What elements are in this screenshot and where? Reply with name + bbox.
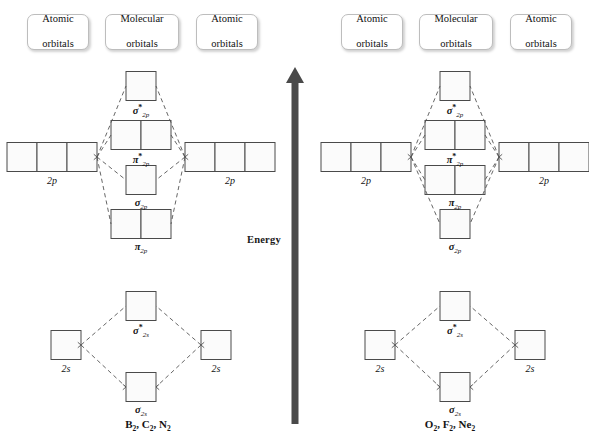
right-mo-sigma-2p-cell-0 [440,210,470,239]
left-atomic-2p-left-cell-0 [7,143,37,172]
right-mo-sigma-2s [440,373,470,402]
right-corr-left-pi-2p [411,157,425,180]
left-corr-left-pi-2p [97,157,111,224]
right-mo-sigma-2p [440,210,470,239]
right-mo-sigma-star-2s-cell-0 [440,292,470,321]
right-label-sigma-2p: σ2p [425,241,485,255]
right-atomic-2s-right [515,331,545,360]
right-label-pi-star-2p: π*2p [425,152,485,168]
right-atomic-2p-left-label: 2p [341,175,391,186]
right-tip-s2s-right-1 [470,387,474,391]
left-atomic-2p-left-cell-1 [37,143,67,172]
left-mo-pi-2p-cell-0 [111,210,141,239]
right-atomic-2p-left [321,143,411,172]
left-tip-s2s-left-1 [122,387,126,391]
left-atomic-2p-right-cell-0 [185,143,215,172]
left-mo-sigma-star-2p [126,72,156,101]
left-atomic-2p-right [185,143,275,172]
left-atomic-2p-left [7,143,97,172]
right-mo-pi-2p [425,166,485,195]
left-label-pi-2p: π2p [111,241,171,255]
left-mo-pi-star-2p-cell-0 [111,121,141,150]
right-mo-sigma-2s-cell-0 [440,373,470,402]
right-atomic-2p-left-cell-1 [351,143,381,172]
left-label-sigma-2p: σ2p [111,197,171,211]
left-atomic-2p-left-label: 2p [27,175,77,186]
left-atomic-2s-left-cell-0 [51,331,81,360]
left-atomic-2p-left-cell-2 [67,143,97,172]
right-atomic-2s-left-label: 2s [355,363,405,374]
right-atomic-2p-right-cell-2 [559,143,589,172]
left-mo-pi-star-2p [111,121,171,150]
left-corr-right-pi-2p [171,157,185,224]
right-atomic-2p-left-cell-0 [321,143,351,172]
left-mo-sigma-star-2s [126,292,156,321]
right-atomic-2p-left-cell-2 [381,143,411,172]
right-mo-pi-star-2p-cell-1 [455,121,485,150]
left-atomic-2s-left [51,331,81,360]
energy-arrow-shaft [292,81,299,424]
right-corr-left-pi-star-2p [411,135,425,157]
left-label-sigma-star-2p: σ*2p [111,103,171,119]
right-tip-s2s-left-1 [436,387,440,391]
energy-axis-arrow [286,67,304,424]
right-atomic-2p-right-cell-0 [499,143,529,172]
left-tip-s2s-right-0 [156,383,160,387]
left-mo-sigma-star-2s-cell-0 [126,292,156,321]
left-label-sigma-2s: σ2s [111,404,171,418]
right-tip-s2s-right-0 [470,383,474,387]
right-atomic-2p-right-label: 2p [519,175,569,186]
right-label-pi-2p: π2p [425,197,485,211]
right-mo-sigma-star-2s [440,292,470,321]
left-mo-pi-2p [111,210,171,239]
right-mo-pi-star-2p [425,121,485,150]
right-mo-sigma-star-2p-cell-0 [440,72,470,101]
right-label-sigma-2s: σ2s [425,404,485,418]
energy-arrow-head [286,67,304,83]
left-atomic-2s-right-cell-0 [201,331,231,360]
left-mo-sigma-star-2p-cell-0 [126,72,156,101]
right-tip-s2s-left-0 [436,383,440,387]
left-mo-pi-2p-cell-1 [141,210,171,239]
right-atomic-2s-left [365,331,395,360]
diagram-graphics-layer [0,0,589,445]
right-label-sigma-star-2s: σ*2s [425,323,485,339]
left-mo-sigma-2p [126,166,156,195]
right-corr-right-pi-2p [485,157,499,180]
left-corr-left-pi-star-2p [97,135,111,157]
caption-right-molecules: O2, F2, Ne2 [390,418,510,433]
right-atomic-2s-right-label: 2s [505,363,555,374]
right-label-sigma-star-2p: σ*2p [425,103,485,119]
left-atomic-2s-right [201,331,231,360]
left-mo-sigma-2s [126,373,156,402]
left-corr-right-pi-star-2p [171,135,185,157]
right-mo-pi-2p-cell-0 [425,166,455,195]
left-mo-sigma-2s-cell-0 [126,373,156,402]
left-label-sigma-star-2s: σ*2s [111,323,171,339]
right-mo-sigma-star-2p [440,72,470,101]
caption-text: B2, C2, N2 [125,418,170,430]
left-atomic-2p-right-cell-2 [245,143,275,172]
right-atomic-2s-right-cell-0 [515,331,545,360]
right-mo-pi-star-2p-cell-0 [425,121,455,150]
left-atomic-2s-left-label: 2s [41,363,91,374]
caption-left-molecules: B2, C2, N2 [93,418,203,433]
left-atomic-2s-right-label: 2s [191,363,241,374]
left-atomic-2p-right-label: 2p [205,175,255,186]
right-atomic-2p-right [499,143,589,172]
right-atomic-2s-left-cell-0 [365,331,395,360]
left-mo-sigma-2p-cell-0 [126,166,156,195]
left-mo-pi-star-2p-cell-1 [141,121,171,150]
mo-diagram-figure: Atomicorbitals Molecularorbitals Atomico… [0,0,589,445]
caption-text: O2, F2, Ne2 [425,418,475,430]
left-tip-s2s-right-1 [156,387,160,391]
right-atomic-2p-right-cell-1 [529,143,559,172]
energy-axis-label: Energy [247,234,281,245]
left-tip-s2s-left-0 [122,383,126,387]
left-atomic-2p-right-cell-1 [215,143,245,172]
left-label-pi-star-2p: π*2p [111,152,171,168]
right-mo-pi-2p-cell-1 [455,166,485,195]
right-corr-right-pi-star-2p [485,135,499,157]
